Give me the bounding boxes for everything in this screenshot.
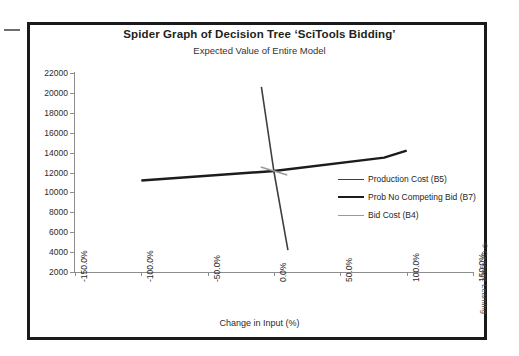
- y-tick-label: 2000: [22, 267, 68, 277]
- y-tick-label: 20000: [22, 88, 68, 98]
- y-tick-label: 8000: [22, 207, 68, 217]
- y-tick: [70, 232, 74, 233]
- y-tick-label: 10000: [22, 187, 68, 197]
- y-tick: [70, 212, 74, 213]
- spider-graph-figure: Spider Graph of Decision Tree ‘SciTools …: [0, 0, 519, 356]
- y-tick-label: 22000: [22, 68, 68, 78]
- legend-swatch: [338, 215, 364, 216]
- y-tick-label: 18000: [22, 108, 68, 118]
- x-tick: [473, 272, 474, 276]
- y-tick: [70, 73, 74, 74]
- y-tick: [70, 133, 74, 134]
- chart-title: Spider Graph of Decision Tree ‘SciTools …: [0, 28, 519, 40]
- legend-item[interactable]: Prob No Competing Bid (B7): [338, 188, 476, 206]
- y-tick-label: 12000: [22, 168, 68, 178]
- y-tick-label: 6000: [22, 227, 68, 237]
- legend-label: Prob No Competing Bid (B7): [368, 192, 476, 202]
- x-tick: [141, 272, 142, 276]
- y-tick-label: 16000: [22, 128, 68, 138]
- chart-legend: Production Cost (B5)Prob No Competing Bi…: [338, 170, 476, 224]
- legend-swatch: [338, 179, 364, 180]
- y-tick: [70, 192, 74, 193]
- y-tick-label: 4000: [22, 247, 68, 257]
- legend-item[interactable]: Bid Cost (B4): [338, 206, 476, 224]
- x-tick: [75, 272, 76, 276]
- legend-swatch: [338, 196, 364, 198]
- y-tick: [70, 153, 74, 154]
- y-tick: [70, 93, 74, 94]
- x-tick: [407, 272, 408, 276]
- x-tick: [208, 272, 209, 276]
- x-tick: [274, 272, 275, 276]
- y-tick-label: 14000: [22, 148, 68, 158]
- legend-item[interactable]: Production Cost (B5): [338, 170, 476, 188]
- x-axis-title: Change in Input (%): [0, 318, 519, 328]
- copyright-notice: © Cengage Learning: [475, 243, 489, 343]
- y-tick: [70, 272, 74, 273]
- x-tick: [340, 272, 341, 276]
- legend-label: Production Cost (B5): [368, 174, 447, 184]
- y-tick: [70, 252, 74, 253]
- y-tick: [70, 113, 74, 114]
- legend-label: Bid Cost (B4): [368, 210, 419, 220]
- y-tick: [70, 173, 74, 174]
- chart-subtitle: Expected Value of Entire Model: [0, 45, 519, 56]
